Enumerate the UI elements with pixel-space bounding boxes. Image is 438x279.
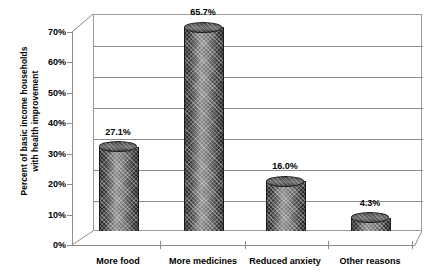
- bar-4: [351, 218, 389, 231]
- grid-line: [94, 139, 423, 140]
- x-tick-mark: [160, 241, 161, 249]
- y-tick-mark: [67, 215, 72, 216]
- bar-1: [99, 147, 137, 231]
- grid-line: [94, 108, 423, 109]
- y-tick-mark: [67, 62, 72, 63]
- y-tick-mark: [67, 32, 72, 33]
- x-tick-mark: [412, 241, 413, 249]
- y-tick-mark: [67, 123, 72, 124]
- bar-body: [266, 181, 306, 231]
- bar-2: [184, 27, 222, 231]
- bar-top-ellipse: [184, 22, 222, 33]
- grid-line: [94, 77, 423, 78]
- bar-3: [266, 181, 304, 231]
- bar-value-label: 4.3%: [335, 198, 405, 208]
- bar-body: [184, 27, 224, 231]
- bar-chart: Percent of basic income households with …: [0, 0, 438, 279]
- bar-value-label: 65.7%: [168, 7, 238, 17]
- x-tick-mark: [328, 241, 329, 249]
- bar-value-label: 16.0%: [250, 161, 320, 171]
- y-axis-line: [72, 32, 73, 245]
- x-category-label: Other reasons: [315, 256, 425, 266]
- plot-area: 27.1%More food65.7%More medicines16.0%Re…: [0, 0, 438, 279]
- y-tick-mark: [67, 245, 72, 246]
- x-tick-mark: [245, 241, 246, 249]
- y-tick-mark: [67, 154, 72, 155]
- y-tick-mark: [67, 184, 72, 185]
- bar-top-ellipse: [266, 176, 304, 187]
- x-axis-line: [72, 245, 415, 246]
- y-tick-mark: [67, 93, 72, 94]
- grid-line: [94, 46, 423, 47]
- bar-value-label: 27.1%: [83, 127, 153, 137]
- bar-body: [99, 147, 139, 231]
